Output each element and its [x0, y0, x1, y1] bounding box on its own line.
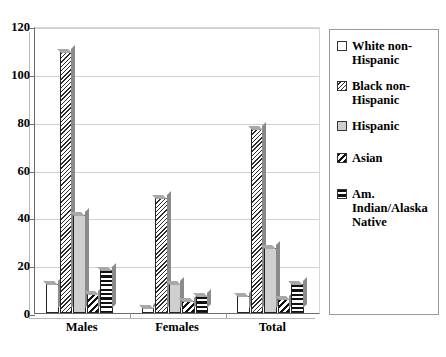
x-tick-label-total: Total — [225, 320, 320, 335]
legend-swatch-icon — [337, 121, 347, 131]
legend-item-hispanic[interactable]: Hispanic — [337, 119, 433, 133]
y-tick-label: 120 — [0, 21, 30, 34]
y-tick-mark — [29, 267, 35, 268]
bar-top-face — [152, 195, 167, 199]
bar-side-face — [303, 277, 307, 308]
bar-top-face — [248, 126, 263, 130]
chart-legend: White non-HispanicBlack non-HispanicHisp… — [329, 29, 439, 315]
bar-total-white-non-hispanic — [237, 296, 250, 313]
bar-females-asian — [182, 301, 195, 313]
legend-label: White non-Hispanic — [352, 39, 433, 67]
bar-side-face — [207, 289, 211, 308]
y-tick-label: 60 — [0, 165, 30, 178]
bar-total-am-indian-alaska-native — [291, 284, 304, 313]
gridline — [35, 28, 319, 29]
bar-top-face — [288, 281, 303, 285]
category-separator — [226, 313, 227, 318]
bar-top-face — [234, 293, 249, 297]
legend-item-black-non-hispanic[interactable]: Black non-Hispanic — [337, 79, 433, 107]
y-tick-mark — [29, 124, 35, 125]
gridline — [35, 76, 319, 77]
y-tick-mark — [29, 76, 35, 77]
y-tick-label: 80 — [0, 117, 30, 130]
gridline — [35, 124, 319, 125]
bar-top-face — [43, 281, 58, 285]
plot-area — [34, 27, 320, 314]
y-tick-mark — [29, 172, 35, 173]
bar-top-face — [139, 305, 154, 309]
y-tick-mark — [29, 315, 35, 316]
y-tick-label: 0 — [0, 308, 30, 321]
y-tick-mark — [29, 219, 35, 220]
bar-total-black-non-hispanic — [251, 129, 264, 313]
bar-total-hispanic — [264, 248, 277, 313]
bar-males-hispanic — [73, 215, 86, 313]
bar-females-am-indian-alaska-native — [196, 296, 209, 313]
legend-label: Am. Indian/Alaska Native — [352, 187, 433, 229]
bar-top-face — [261, 245, 276, 249]
legend-label: Asian — [352, 151, 383, 165]
bar-top-face — [275, 296, 290, 300]
bar-males-black-non-hispanic — [60, 52, 73, 313]
bar-top-face — [179, 298, 194, 302]
y-tick-label: 40 — [0, 212, 30, 225]
x-tick-label-females: Females — [129, 320, 224, 335]
legend-item-am-indian-alaska-native[interactable]: Am. Indian/Alaska Native — [337, 187, 433, 229]
y-tick-mark — [29, 28, 35, 29]
bar-top-face — [57, 49, 72, 53]
y-tick-label: 20 — [0, 260, 30, 273]
category-separator — [130, 313, 131, 318]
bar-top-face — [166, 281, 181, 285]
y-tick-label: 100 — [0, 69, 30, 82]
bar-top-face — [70, 212, 85, 216]
chart-root: 020406080100120 MalesFemalesTotal White … — [0, 0, 446, 357]
x-tick-label-males: Males — [34, 320, 129, 335]
bar-males-white-non-hispanic — [46, 284, 59, 313]
bar-total-asian — [278, 299, 291, 313]
legend-item-asian[interactable]: Asian — [337, 151, 433, 165]
bar-side-face — [112, 263, 116, 308]
bar-females-black-non-hispanic — [155, 198, 168, 313]
bar-males-am-indian-alaska-native — [100, 270, 113, 313]
legend-label: Hispanic — [352, 119, 399, 133]
legend-swatch-icon — [337, 41, 347, 51]
bar-top-face — [84, 291, 99, 295]
legend-swatch-icon — [337, 189, 347, 199]
bar-top-face — [193, 293, 208, 297]
bar-females-white-non-hispanic — [142, 308, 155, 313]
legend-swatch-icon — [337, 153, 347, 163]
legend-swatch-icon — [337, 81, 347, 91]
legend-label: Black non-Hispanic — [352, 79, 433, 107]
gridline — [35, 172, 319, 173]
legend-item-white-non-hispanic[interactable]: White non-Hispanic — [337, 39, 433, 67]
bar-males-asian — [87, 294, 100, 313]
